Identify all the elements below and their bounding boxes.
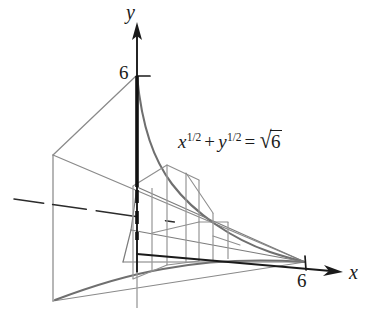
equation-annotation: x1/2+y1/2=√6 xyxy=(178,128,282,152)
plane-lower-diagonal xyxy=(53,262,305,301)
z-axis-group xyxy=(14,199,196,225)
y-axis-label: y xyxy=(126,2,135,22)
figure-canvas xyxy=(0,0,366,310)
x-axis-tick-6 xyxy=(305,256,306,270)
equation-plus-operator: + xyxy=(201,131,218,152)
calculus-figure: y x 6 6 x1/2+y1/2=√6 xyxy=(0,0,366,310)
ruling-line-2 xyxy=(131,230,305,262)
plane-top-edge xyxy=(53,76,136,155)
equation-equals-operator: = xyxy=(242,131,259,152)
facet-line-2 xyxy=(167,165,199,180)
ridge-line-lower xyxy=(123,230,131,262)
equation-term1-base: x xyxy=(178,131,187,152)
equation-term2-exponent: 1/2 xyxy=(227,131,242,143)
facet-line-5 xyxy=(152,222,199,233)
z-axis-dashed-line xyxy=(14,199,196,225)
facet-line-7 xyxy=(133,265,167,279)
y-axis-tick-label-6: 6 xyxy=(119,63,129,82)
equation-term2-base: y xyxy=(218,131,227,152)
x-axis-tick-label-6: 6 xyxy=(297,271,307,290)
radical-sign-icon: √ xyxy=(259,128,271,152)
ruling-line-1 xyxy=(137,187,305,262)
equation-term1-exponent: 1/2 xyxy=(187,131,202,143)
equation-radical: √6 xyxy=(259,128,282,152)
base-curve-front xyxy=(55,261,305,300)
main-curve-upper xyxy=(137,76,305,262)
x-axis-label: x xyxy=(349,262,358,282)
surface-curves-group xyxy=(55,76,305,300)
